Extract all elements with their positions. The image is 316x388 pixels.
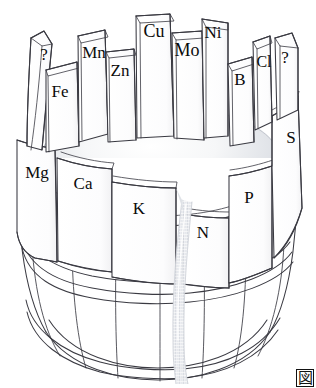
label-mn: Mn <box>82 43 106 62</box>
label-q-left: ? <box>40 45 48 64</box>
label-s: S <box>286 128 295 147</box>
stave-p <box>229 160 273 283</box>
stave-cl <box>253 36 272 130</box>
stave-k <box>112 176 177 284</box>
label-mo: Mo <box>174 40 199 60</box>
label-ca: Ca <box>74 174 93 193</box>
label-cu: Cu <box>143 21 164 41</box>
label-mg: Mg <box>25 163 49 182</box>
stave-fe <box>46 62 79 152</box>
label-q-right: ? <box>281 48 289 67</box>
figure-corner-mark: 図 <box>296 369 314 387</box>
label-ni: Ni <box>205 23 222 42</box>
label-k: K <box>133 199 146 218</box>
label-fe: Fe <box>52 82 69 101</box>
stave-question-right <box>275 33 298 120</box>
stave-mg <box>17 140 57 262</box>
label-zn: Zn <box>111 61 130 80</box>
label-n: N <box>197 223 209 242</box>
stave-ca <box>57 152 114 272</box>
label-p: P <box>244 188 253 207</box>
label-b: B <box>234 70 245 89</box>
label-cl: Cl <box>256 53 272 70</box>
